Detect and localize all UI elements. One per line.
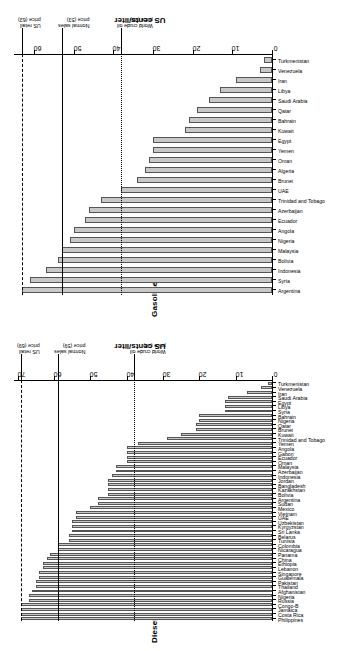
- bar: [153, 137, 272, 143]
- x-axis-tick: [273, 493, 276, 494]
- x-axis-tick-label: Kuwait: [278, 128, 294, 134]
- bar: [181, 433, 272, 436]
- y-axis-tick-label: 0: [274, 371, 278, 378]
- x-axis-tick-label: Malaysia: [278, 248, 298, 254]
- x-axis-tick-label: Egypt: [278, 138, 291, 144]
- y-axis-tick-label: 0: [274, 45, 278, 52]
- x-axis-tick: [273, 410, 276, 411]
- x-axis-tick: [273, 424, 276, 425]
- reference-line-label: Normal salesprice (59): [54, 343, 85, 355]
- x-axis-tick: [273, 475, 276, 476]
- bar: [39, 576, 272, 579]
- y-axis-tick-label: 50: [73, 45, 81, 52]
- bar: [58, 543, 272, 546]
- bar: [167, 437, 272, 440]
- y-axis-tick-label: 10: [235, 371, 243, 378]
- x-axis-tick: [273, 525, 276, 526]
- x-axis-tick: [273, 507, 276, 508]
- x-axis-tick: [273, 415, 276, 416]
- x-axis-tick: [273, 618, 276, 619]
- panel-title-diesel: Diesel: [150, 618, 159, 643]
- x-axis-tick-label: Iran: [278, 78, 287, 84]
- bar: [101, 197, 272, 203]
- bar: [112, 474, 272, 477]
- bar: [21, 613, 272, 616]
- y-axis-label-gasoline: US cents/liter: [114, 16, 165, 25]
- x-axis-tick: [273, 79, 276, 80]
- bar: [21, 617, 272, 620]
- y-axis-label-diesel: US cents/liter: [114, 342, 165, 351]
- x-axis-tick: [273, 139, 276, 140]
- x-axis-tick-label: Angola: [278, 228, 294, 234]
- bar: [47, 557, 272, 560]
- y-axis-tick-label: 30: [153, 45, 161, 52]
- x-axis-tick: [273, 433, 276, 434]
- x-axis-tick: [273, 419, 276, 420]
- x-axis-tick-label: Turkmenistan: [278, 58, 309, 64]
- y-axis-line-diesel: [14, 380, 272, 381]
- x-axis-tick: [273, 387, 276, 388]
- bar: [72, 520, 272, 523]
- bar: [199, 419, 272, 422]
- x-axis-tick: [273, 269, 276, 270]
- x-axis-tick: [273, 159, 276, 160]
- x-axis-tick: [273, 585, 276, 586]
- x-axis-tick: [273, 169, 276, 170]
- x-axis-tick: [273, 219, 276, 220]
- bar: [43, 562, 272, 565]
- x-axis-tick: [273, 595, 276, 596]
- bar: [116, 465, 272, 468]
- x-axis-tick-label: Nigeria: [278, 238, 294, 244]
- y-axis-tick-label: 30: [163, 371, 171, 378]
- bar: [247, 391, 272, 394]
- panel-gasoline: Gasoline ArgentinaSyriaIndonesiaBoliviaM…: [0, 0, 356, 325]
- x-axis-tick: [273, 129, 276, 130]
- plot-area-diesel: [14, 381, 272, 621]
- x-axis-tick: [273, 239, 276, 240]
- bar: [62, 247, 272, 253]
- bar: [76, 511, 272, 514]
- x-axis-tick: [273, 438, 276, 439]
- x-axis-tick: [273, 521, 276, 522]
- x-axis-tick: [273, 109, 276, 110]
- bar: [58, 548, 272, 551]
- bar: [138, 442, 272, 445]
- bar: [29, 594, 272, 597]
- x-axis-tick: [273, 89, 276, 90]
- bar: [116, 470, 272, 473]
- plot-area-gasoline: [14, 55, 272, 295]
- annotation-separator: [62, 28, 63, 54]
- reference-line: [21, 380, 22, 621]
- bar: [260, 67, 272, 73]
- x-axis-tick: [273, 572, 276, 573]
- x-axis-tick: [273, 189, 276, 190]
- x-axis-tick: [273, 470, 276, 471]
- bar: [74, 227, 272, 233]
- bar: [261, 387, 272, 390]
- panel-diesel: Diesel PhilippinesCosta RicaJamaicaCongo…: [0, 326, 356, 651]
- x-axis-tick: [273, 530, 276, 531]
- bar: [236, 77, 272, 83]
- x-axis-tick: [273, 59, 276, 60]
- reference-line: [121, 54, 122, 295]
- y-axis-tick-label: 40: [126, 371, 134, 378]
- annotation-separator: [22, 28, 23, 54]
- y-axis-tick-label: 10: [232, 45, 240, 52]
- bar: [220, 87, 272, 93]
- bar: [30, 277, 272, 283]
- bar: [50, 553, 272, 556]
- bar: [89, 207, 272, 213]
- bar: [21, 608, 272, 611]
- x-axis-tick: [273, 608, 276, 609]
- x-axis-tick: [273, 452, 276, 453]
- x-axis-tick: [273, 428, 276, 429]
- bar: [185, 127, 272, 133]
- bar: [145, 167, 272, 173]
- bar: [76, 516, 272, 519]
- bar: [36, 585, 272, 588]
- x-axis-tick-label: Saudi Arabia: [278, 98, 307, 104]
- x-axis-tick: [273, 502, 276, 503]
- y-axis-tick-label: 40: [113, 45, 121, 52]
- bar: [43, 567, 272, 570]
- x-axis-tick-label: Libya: [278, 88, 290, 94]
